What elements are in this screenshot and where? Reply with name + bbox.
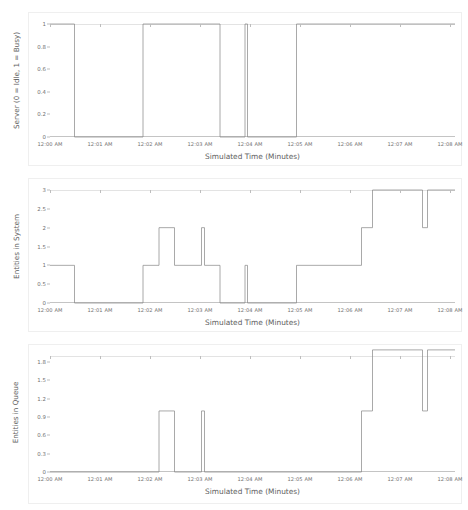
y-tick-mark <box>47 284 50 285</box>
x-tick-mark <box>250 190 251 193</box>
x-tick-mark <box>50 190 51 193</box>
plot-area-server: 00.20.40.60.8112:00 AM12:01 AM12:02 AM12… <box>50 24 455 137</box>
x-tick-label: 12:08 AM <box>438 141 463 147</box>
x-tick-mark <box>350 24 351 27</box>
x-tick-label: 12:01 AM <box>88 307 113 313</box>
x-tick-mark <box>100 190 101 193</box>
x-tick-mark <box>250 356 251 359</box>
y-tick-label: 0.2 <box>37 111 46 117</box>
y-tick-mark <box>47 208 50 209</box>
x-tick-label: 12:02 AM <box>138 141 163 147</box>
y-tick-label: 0 <box>42 469 46 475</box>
y-axis-label: Entities in Queue <box>10 356 22 469</box>
y-tick-label: 1.5 <box>37 377 46 383</box>
y-tick-mark <box>47 46 50 47</box>
y-tick-mark <box>47 398 50 399</box>
x-axis-label: Simulated Time (Minutes) <box>50 487 455 496</box>
y-tick-mark <box>47 137 50 138</box>
x-tick-label: 12:03 AM <box>188 476 213 482</box>
y-tick-label: 0.8 <box>37 44 46 50</box>
x-tick-mark <box>300 356 301 359</box>
y-tick-mark <box>47 69 50 70</box>
x-tick-mark <box>400 24 401 27</box>
x-tick-mark <box>350 356 351 359</box>
x-tick-label: 12:04 AM <box>238 476 263 482</box>
x-tick-mark <box>50 24 51 27</box>
x-tick-mark <box>250 24 251 27</box>
figure-canvas: Server (0 = Idle, 1 = Busy) 00.20.40.60.… <box>0 0 468 510</box>
x-tick-mark <box>100 24 101 27</box>
x-tick-mark <box>150 190 151 193</box>
x-tick-label: 12:04 AM <box>238 307 263 313</box>
step-path <box>50 24 455 137</box>
step-path <box>50 350 455 472</box>
y-tick-mark <box>47 91 50 92</box>
y-tick-label: 1 <box>42 262 46 268</box>
plot-area-entities-in-queue: 00.30.60.91.21.51.812:00 AM12:01 AM12:02… <box>50 356 455 472</box>
x-tick-label: 12:00 AM <box>38 476 63 482</box>
y-tick-label: 0 <box>42 300 46 306</box>
y-tick-mark <box>47 380 50 381</box>
x-tick-label: 12:05 AM <box>288 307 313 313</box>
x-tick-label: 12:07 AM <box>388 307 413 313</box>
x-tick-label: 12:05 AM <box>288 141 313 147</box>
y-tick-label: 2 <box>42 225 46 231</box>
series-line-server <box>50 24 455 137</box>
y-tick-mark <box>47 453 50 454</box>
y-tick-label: 1.2 <box>37 396 46 402</box>
x-tick-label: 12:01 AM <box>88 141 113 147</box>
x-tick-label: 12:01 AM <box>88 476 113 482</box>
x-tick-mark <box>450 356 451 359</box>
x-tick-label: 12:07 AM <box>388 476 413 482</box>
y-tick-label: 3 <box>42 187 46 193</box>
x-tick-mark <box>150 24 151 27</box>
y-tick-mark <box>47 435 50 436</box>
y-tick-label: 0.6 <box>37 66 46 72</box>
x-tick-mark <box>200 24 201 27</box>
y-axis-label: Entities in System <box>10 190 22 303</box>
y-tick-mark <box>47 417 50 418</box>
y-tick-mark <box>47 114 50 115</box>
y-tick-mark <box>47 265 50 266</box>
x-tick-mark <box>50 356 51 359</box>
y-tick-label: 2.5 <box>37 206 46 212</box>
series-line-entities-in-queue <box>50 356 455 472</box>
x-tick-mark <box>450 24 451 27</box>
y-tick-label: 0.4 <box>37 89 46 95</box>
x-tick-label: 12:06 AM <box>338 307 363 313</box>
plot-area-entities-in-system: 00.511.522.5312:00 AM12:01 AM12:02 AM12:… <box>50 190 455 303</box>
y-tick-mark <box>47 303 50 304</box>
chart-panel-server: Server (0 = Idle, 1 = Busy) 00.20.40.60.… <box>0 4 468 170</box>
y-tick-label: 0 <box>42 134 46 140</box>
x-tick-mark <box>350 190 351 193</box>
y-tick-label: 0.3 <box>37 451 46 457</box>
x-tick-mark <box>100 356 101 359</box>
x-tick-label: 12:03 AM <box>188 307 213 313</box>
x-tick-mark <box>300 24 301 27</box>
x-tick-mark <box>150 356 151 359</box>
y-tick-label: 0.5 <box>37 281 46 287</box>
x-tick-label: 12:02 AM <box>138 476 163 482</box>
x-tick-label: 12:04 AM <box>238 141 263 147</box>
series-line-entities-in-system <box>50 190 455 303</box>
x-tick-label: 12:05 AM <box>288 476 313 482</box>
x-tick-label: 12:00 AM <box>38 307 63 313</box>
x-tick-label: 12:03 AM <box>188 141 213 147</box>
x-tick-mark <box>200 190 201 193</box>
x-tick-label: 12:02 AM <box>138 307 163 313</box>
y-tick-label: 1.5 <box>37 244 46 250</box>
chart-panel-entities-in-system: Entities in System 00.511.522.5312:00 AM… <box>0 170 468 336</box>
x-tick-mark <box>300 190 301 193</box>
y-tick-label: 1.8 <box>37 359 46 365</box>
x-tick-label: 12:00 AM <box>38 141 63 147</box>
y-tick-mark <box>47 472 50 473</box>
y-tick-label: 1 <box>42 21 46 27</box>
x-tick-label: 12:08 AM <box>438 476 463 482</box>
step-path <box>50 190 455 303</box>
chart-panel-entities-in-queue: Entities in Queue 00.30.60.91.21.51.812:… <box>0 336 468 508</box>
x-axis-label: Simulated Time (Minutes) <box>50 152 455 161</box>
x-tick-mark <box>400 190 401 193</box>
x-tick-label: 12:07 AM <box>388 141 413 147</box>
x-tick-label: 12:08 AM <box>438 307 463 313</box>
x-tick-mark <box>450 190 451 193</box>
